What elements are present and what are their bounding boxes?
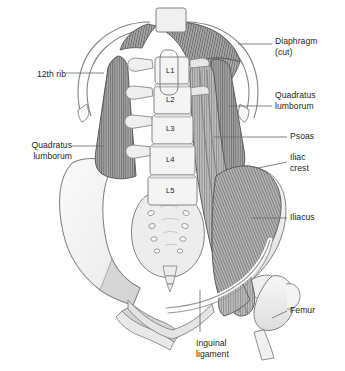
vertebra-label-l2: L2 xyxy=(166,95,175,104)
leader-iliac-crest xyxy=(258,162,287,168)
label-diaphragm: Diaphragm (cut) xyxy=(275,36,317,57)
vertebra-label-l3: L3 xyxy=(166,124,175,133)
label-psoas: Psoas xyxy=(290,131,314,142)
label-inguinal-ligament: Inguinal ligament xyxy=(196,338,229,359)
label-iliacus: Iliacus xyxy=(290,212,315,223)
label-12th-rib: 12th rib xyxy=(22,69,66,80)
label-quadratus-lumborum-right: Quadratus lumborum xyxy=(275,90,316,111)
label-iliac-crest: Iliac crest xyxy=(290,152,309,173)
anatomy-figure: Diaphragm (cut) Quadratus lumborum Psoas… xyxy=(0,0,345,371)
vertebra-label-l1: L1 xyxy=(166,66,175,75)
vertebra-label-l5: L5 xyxy=(166,186,175,195)
label-quadratus-lumborum-left: Quadratus lumborum xyxy=(16,140,72,161)
vertebra-label-l4: L4 xyxy=(166,155,175,164)
sacrum xyxy=(131,191,204,292)
label-femur: Femur xyxy=(290,305,315,316)
